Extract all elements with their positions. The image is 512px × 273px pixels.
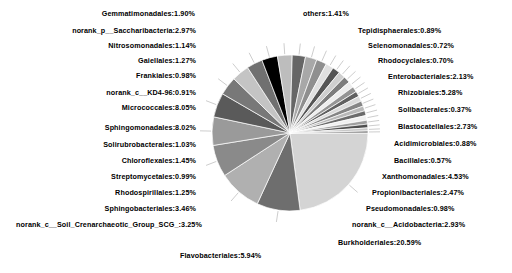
leader-line — [218, 79, 227, 86]
leader-line — [363, 99, 373, 103]
leader-line — [349, 185, 357, 192]
leader-line — [206, 101, 216, 105]
leader-line — [361, 93, 371, 98]
pie-label-burkholderiales: Burkholderiales:20.59% — [338, 238, 508, 247]
leader-line — [322, 51, 326, 61]
pie-label-rhizobiales: Rhizobiales:5.28% — [398, 88, 512, 97]
pie-label-norank-acidobacteria: norank_c__Acidobacteria:2.93% — [352, 220, 512, 229]
leader-line — [348, 71, 356, 79]
leader-line — [330, 56, 336, 65]
leader-line — [368, 120, 379, 122]
pie-chart-figure: Gemmatimonadales:1.90% others:1.41% nora… — [0, 0, 512, 273]
leader-line — [284, 43, 285, 54]
pie-label-acidimicrobiales: Acidimicrobiales:0.88% — [394, 139, 512, 148]
leader-line — [369, 125, 380, 126]
pie-label-gaiellales: Gaiellales:1.27% — [36, 56, 196, 65]
pie-label-pseudomonadales: Pseudomonadales:0.98% — [366, 204, 512, 213]
leader-line — [231, 193, 238, 201]
pie-label-enterobacteriales: Enterobacteriales:2.13% — [388, 72, 512, 81]
pie-label-frankiales: Frankiales:0.98% — [36, 71, 196, 80]
pie-label-sphingobacteriales: Sphingobacteriales:3.46% — [36, 204, 196, 213]
leader-line — [299, 44, 300, 55]
leader-line — [276, 211, 278, 222]
leader-line — [369, 129, 380, 130]
pie-label-rhodocyclales: Rhodocyclales:0.70% — [378, 56, 512, 65]
pie-label-sphingomonadales: Sphingomonadales:8.02% — [36, 123, 196, 132]
leader-line — [343, 66, 350, 74]
pie-label-propionibacteriales: Propionibacteriales:2.47% — [372, 188, 512, 197]
pie-label-others: others:1.41% — [303, 9, 423, 18]
pie-label-selenomonadales: Selenomonadales:0.72% — [368, 41, 512, 50]
leader-line — [337, 61, 344, 70]
pie-label-tepidisphaerales: Tepidisphaerales:0.89% — [358, 26, 512, 35]
pie-label-chloroflexales: Chloroflexales:1.45% — [36, 156, 196, 165]
pie-label-solibacterales: Solibacterales:0.37% — [398, 105, 512, 114]
pie-label-rhodospirillales: Rhodospirillales:1.25% — [36, 188, 196, 197]
pie-label-blastocatellales: Blastocatellales:2.73% — [398, 122, 512, 131]
pie-label-micrococcales: Micrococcales:8.05% — [36, 103, 196, 112]
leader-line — [366, 110, 377, 113]
pie-label-gemmatimonadales: Gemmatimonadales:1.90% — [55, 9, 195, 18]
pie-label-solirubrobacterales: Solirubrobacterales:1.03% — [36, 140, 196, 149]
pie-slice-group — [212, 55, 368, 211]
pie-label-nitrosomonadales: Nitrosomonadales:1.14% — [36, 41, 196, 50]
leader-line — [358, 88, 368, 94]
leader-line — [352, 77, 361, 84]
pie-label-streptomycetales: Streptomycetales:0.99% — [36, 172, 196, 181]
pie-label-norank-saccharibacteria: norank_p__Saccharibacteria:2.97% — [36, 26, 196, 35]
pie-slice — [290, 133, 368, 210]
leader-line — [365, 105, 375, 108]
leader-line — [206, 161, 216, 165]
pie-label-norank-kd4-96: norank_c__KD4-96:0.91% — [36, 88, 196, 97]
pie-label-norank-soil-scg: norank_c__Soil_Crenarchaeotic_Group_SCG_… — [16, 220, 196, 229]
leader-line — [367, 115, 378, 117]
leader-line — [233, 64, 240, 72]
leader-line — [312, 46, 315, 57]
leader-line — [355, 83, 364, 89]
pie-label-xanthomonadales: Xanthomonadales:4.53% — [382, 172, 512, 181]
pie-label-flavobacteriales: Flavobacteriales:5.94% — [180, 251, 340, 260]
leader-line — [266, 46, 269, 57]
leader-line — [249, 53, 254, 63]
pie-label-bacillales: Bacillales:0.57% — [394, 156, 512, 165]
